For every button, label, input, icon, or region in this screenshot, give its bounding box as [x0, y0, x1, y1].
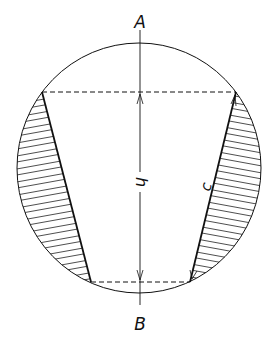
- left-hatched-region: [0, 82, 100, 302]
- label-h: h: [132, 177, 151, 187]
- label-a: A: [133, 12, 146, 32]
- label-c: c: [196, 180, 216, 193]
- right-hatched-region: [180, 80, 273, 292]
- label-b: B: [134, 314, 146, 334]
- sphere-frustum-diagram: A B h c: [0, 0, 273, 339]
